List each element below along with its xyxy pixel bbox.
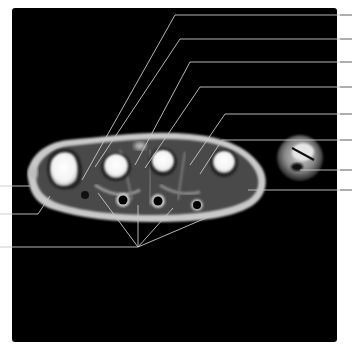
thumb-cross-section: [277, 135, 323, 181]
metacarpal-3: [101, 153, 131, 181]
right-edge-ticks: [340, 15, 352, 190]
metacarpal-5: [210, 149, 238, 177]
hand-cross-section: [28, 133, 266, 222]
metacarpal-4: [149, 148, 177, 176]
metacarpal-2: [47, 149, 82, 190]
mri-figure: [0, 0, 352, 353]
